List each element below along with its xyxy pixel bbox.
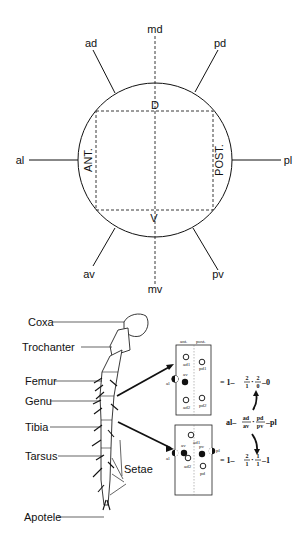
setae-box-1: ant. post. ad1 pd1 av al ad2 pd2 = 1– 2 … <box>166 339 270 415</box>
box1-header-ant: ant. <box>180 339 187 344</box>
seta-ad2: ad2 <box>183 405 191 410</box>
seta-ad2-b2: ad2 <box>184 464 192 469</box>
label-tarsus: Tarsus <box>25 450 58 462</box>
svg-text:·: · <box>251 377 254 386</box>
label-apotele: Apotele <box>24 511 61 523</box>
label-dorsal: D <box>151 99 159 111</box>
label-mv: mv <box>148 283 163 295</box>
seta-pv-b2: pv <box>199 444 205 449</box>
svg-text:·: · <box>252 417 255 426</box>
equation-2: = 1– 2 1 · 1 1 –1 <box>220 453 270 467</box>
seta-av-b2: av <box>181 443 186 448</box>
svg-text:1: 1 <box>257 453 260 459</box>
label-trochanter: Trochanter <box>22 341 75 353</box>
general-formula: al– ad av · pd pv –pl <box>226 390 277 455</box>
figure-canvas: md ad pd al pl av mv pv D V ANT. POST. <box>0 0 303 540</box>
label-ad: ad <box>85 37 97 49</box>
leg-shaft <box>100 350 122 505</box>
inner-rectangle <box>96 111 213 210</box>
svg-text:·: · <box>251 455 254 464</box>
label-anterior: ANT. <box>82 148 94 172</box>
orientation-diagram: md ad pd al pl av mv pv D V ANT. POST. <box>16 23 293 295</box>
svg-text:1: 1 <box>246 461 249 467</box>
seta-av: av <box>183 372 188 377</box>
svg-text:pv: pv <box>257 423 263 429</box>
svg-text:1: 1 <box>246 383 249 389</box>
seta-pl-b2: pl <box>216 448 221 453</box>
seta-al: al <box>166 381 170 386</box>
svg-text:1: 1 <box>257 461 260 467</box>
ray-pd <box>195 50 218 92</box>
seta-pd2: pd2 <box>199 403 207 408</box>
svg-text:–pl: –pl <box>265 418 277 427</box>
svg-text:= 1–: = 1– <box>220 378 236 387</box>
label-md: md <box>147 23 162 35</box>
svg-text:2: 2 <box>257 375 260 381</box>
svg-text:2: 2 <box>246 375 249 381</box>
label-al: al <box>16 154 25 166</box>
label-ventral: V <box>150 212 158 224</box>
seta-ad1: ad1 <box>183 362 191 367</box>
box1-header-post: post. <box>196 339 206 344</box>
arrow-to-box-1 <box>117 366 171 396</box>
equation-1: = 1– 2 1 · 2 0 –0 <box>220 375 270 389</box>
svg-text:al–: al– <box>226 418 237 427</box>
seta-pd1: pd1 <box>199 366 207 371</box>
svg-text:av: av <box>243 423 249 429</box>
arrow-to-box-2 <box>118 422 171 448</box>
label-av: av <box>83 268 95 280</box>
svg-text:–0: –0 <box>261 378 270 387</box>
ray-av <box>93 228 115 266</box>
setae-box-2: ad1 av ad2 pv al pl pd = 1– 2 1 · 1 1 –1 <box>166 425 270 495</box>
label-pd: pd <box>214 37 226 49</box>
label-coxa: Coxa <box>28 316 55 328</box>
label-femur: Femur <box>25 375 57 387</box>
label-posterior: POST. <box>213 144 225 176</box>
label-setae: Setae <box>124 463 153 475</box>
svg-text:= 1–: = 1– <box>220 456 236 465</box>
ray-ad <box>93 50 115 93</box>
label-pl: pl <box>284 154 293 166</box>
svg-text:–1: –1 <box>261 456 270 465</box>
label-pv: pv <box>212 268 224 280</box>
ray-pv <box>193 228 218 270</box>
leg-diagram: Coxa Trochanter Femur Genu Tibia Tarsus … <box>22 314 174 523</box>
label-genu: Genu <box>25 395 52 407</box>
svg-text:2: 2 <box>246 453 249 459</box>
svg-text:pd: pd <box>257 415 264 421</box>
seta-al-b2: al <box>166 456 170 461</box>
svg-text:0: 0 <box>257 383 260 389</box>
seta-pd-b2: pd <box>200 471 206 476</box>
label-tibia: Tibia <box>25 421 49 433</box>
svg-text:ad: ad <box>243 415 250 421</box>
